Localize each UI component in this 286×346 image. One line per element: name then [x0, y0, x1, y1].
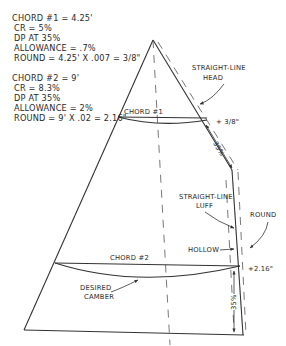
round-label: ROUND	[250, 211, 276, 219]
chord2-line	[55, 263, 240, 266]
straight-line-head-label-2: HEAD	[203, 74, 223, 82]
lower-35pct-dimension: 35%	[230, 271, 238, 332]
chord2: CHORD #2	[55, 254, 240, 277]
hollow-callout: HOLLOW	[188, 246, 234, 254]
chord2-note-line: CHORD #2 = 9'	[12, 73, 79, 83]
round-dashed-line	[238, 172, 246, 335]
arrow-icon	[220, 249, 234, 250]
plus-3-8-label: + 3/8"	[216, 118, 239, 126]
desired-camber-label-2: CAMBER	[84, 293, 114, 301]
chord1-note-line: ALLOWANCE = .7%	[14, 43, 96, 53]
center-dashed-line	[153, 40, 170, 345]
chord2-note-line: CR = 8.3%	[14, 83, 60, 93]
chord2-note-line: ROUND = 9' X .02 = 2.16"	[14, 113, 127, 123]
upper-35pct-dimension: 35%	[206, 125, 232, 168]
straight-line-luff-callout: STRAIGHT-LINE LUFF	[179, 193, 234, 228]
chord2-notes: CHORD #2 = 9' CR = 8.3% DP AT 35% ALLOWA…	[12, 73, 127, 123]
straight-line-head-label: STRAIGHT-LINE	[192, 64, 246, 72]
straight-line-luff-label: STRAIGHT-LINE	[179, 193, 233, 201]
chord2-note-line: DP AT 35%	[14, 93, 60, 103]
hollow-label: HOLLOW	[188, 246, 219, 254]
chord1-note-line: CR = 5%	[14, 23, 52, 33]
chord1-label: CHORD #1	[124, 108, 163, 116]
arrow-icon	[205, 212, 234, 228]
arrow-icon	[111, 280, 138, 292]
sail-camber-diagram: CHORD #1 = 4.25' CR = 5% DP AT 35% ALLOW…	[0, 0, 286, 346]
round-callout: ROUND	[250, 211, 276, 248]
chord1-notes: CHORD #1 = 4.25' CR = 5% DP AT 35% ALLOW…	[12, 13, 141, 63]
chord1-note-line: ROUND = 4.25' X .007 = 3/8"	[14, 53, 141, 63]
arrow-icon	[200, 84, 224, 104]
desired-camber-label: DESIRED	[80, 284, 112, 292]
plus-2-16-label: +2.16"	[248, 265, 273, 273]
straight-line-head-callout: STRAIGHT-LINE HEAD	[192, 64, 246, 104]
chord1-note-line: CHORD #1 = 4.25'	[12, 13, 93, 23]
chord1-line	[118, 117, 207, 118]
chord1-note-line: DP AT 35%	[14, 33, 60, 43]
straight-line-luff-label-2: LUFF	[196, 202, 213, 210]
arrow-icon	[250, 222, 268, 248]
chord1: CHORD #1	[118, 108, 207, 123]
chord2-label: CHORD #2	[110, 254, 149, 262]
offset-head-dashed-line	[158, 42, 238, 170]
desired-camber-callout: DESIRED CAMBER	[80, 280, 138, 301]
lower-35pct-label: 35%	[230, 294, 238, 310]
sail-foot	[24, 330, 244, 335]
chord2-note-line: ALLOWANCE = 2%	[14, 103, 93, 113]
